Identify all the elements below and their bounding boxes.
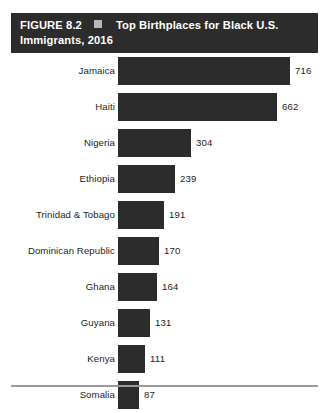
bar-track: 662 — [118, 93, 330, 121]
bar-category-label: Jamaica — [79, 57, 115, 85]
bar-category-label: Ghana — [86, 273, 115, 301]
bar-fill — [118, 309, 150, 337]
figure-header: FIGURE 8.2Top Birthplaces for Black U.S.… — [11, 13, 318, 53]
bar-value-label: 164 — [157, 273, 179, 301]
figure-title-line-1: Top Birthplaces for Black U.S. — [116, 19, 279, 31]
bar-value-label: 304 — [191, 129, 213, 157]
bar-track: 170 — [118, 237, 330, 265]
bar-category-label: Ethiopia — [80, 165, 115, 193]
bar-row: Nigeria 304 — [0, 129, 330, 157]
square-marker-icon — [94, 20, 102, 28]
bar-track: 304 — [118, 129, 330, 157]
bar-fill — [118, 165, 175, 193]
bar-category-label: Guyana — [81, 309, 115, 337]
bar-value-label: 131 — [150, 309, 172, 337]
bar-fill — [118, 57, 290, 85]
figure-header-line-1: FIGURE 8.2Top Birthplaces for Black U.S. — [20, 18, 310, 33]
bar-chart: Jamaica 716 Haiti 662 Nigeria 304 Ethiop… — [0, 57, 330, 413]
bar-category-label: Kenya — [87, 345, 115, 373]
bar-fill — [118, 237, 159, 265]
bar-fill — [118, 345, 145, 373]
bar-value-label: 239 — [175, 165, 197, 193]
bar-track: 191 — [118, 201, 330, 229]
bar-value-label: 191 — [164, 201, 186, 229]
bar-fill — [118, 201, 164, 229]
figure-title-line-2: Immigrants, 2016 — [20, 33, 310, 48]
bar-row: Kenya 111 — [0, 345, 330, 373]
bar-track: 239 — [118, 165, 330, 193]
bar-value-label: 716 — [290, 57, 312, 85]
bar-row: Haiti 662 — [0, 93, 330, 121]
bar-row: Ghana 164 — [0, 273, 330, 301]
bar-track: 131 — [118, 309, 330, 337]
bar-fill — [118, 93, 277, 121]
bar-row: Guyana 131 — [0, 309, 330, 337]
bar-fill — [118, 273, 157, 301]
bar-row: Ethiopia 239 — [0, 165, 330, 193]
bar-category-label: Haiti — [95, 93, 115, 121]
figure-bottom-rule — [11, 385, 318, 387]
bar-category-label: Trinidad & Tobago — [36, 201, 115, 229]
bar-category-label: Dominican Republic — [28, 237, 115, 265]
bar-row: Jamaica 716 — [0, 57, 330, 85]
bar-row: Dominican Republic 170 — [0, 237, 330, 265]
figure-number-label: FIGURE 8.2 — [20, 19, 82, 31]
bar-track: 164 — [118, 273, 330, 301]
bar-fill — [118, 129, 191, 157]
bar-value-label: 662 — [277, 93, 299, 121]
bar-category-label: Nigeria — [84, 129, 115, 157]
bar-value-label: 111 — [145, 345, 165, 373]
bar-track: 111 — [118, 345, 330, 373]
bar-track: 716 — [118, 57, 330, 85]
bar-row: Trinidad & Tobago 191 — [0, 201, 330, 229]
bar-value-label: 170 — [159, 237, 181, 265]
